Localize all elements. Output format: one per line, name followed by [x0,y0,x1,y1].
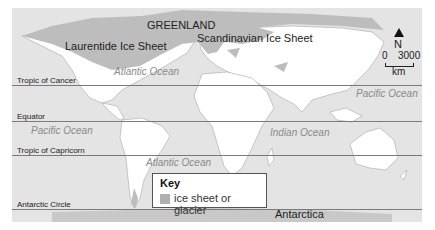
tropic-of-cancer-label: Tropic of Cancer [17,76,76,85]
scale-unit: km [392,66,405,77]
atlantic-ocean-south-label: Atlantic Ocean [146,157,211,168]
key-item-label: ice sheet or glacier [174,192,266,216]
scale-start: 0 [382,50,388,61]
antarctica-label: Antarctica [275,208,324,220]
tropic-of-capricorn-label: Tropic of Capricorn [17,146,85,155]
north-label: N [394,38,402,50]
tropic-of-cancer-line [12,85,422,86]
tropic-of-capricorn-line [12,155,422,156]
pacific-ocean-east-label: Pacific Ocean [31,125,93,136]
key-title: Key [160,177,180,189]
indian-ocean-label: Indian Ocean [270,127,330,138]
laurentide-ice-sheet-label: Laurentide Ice Sheet [65,40,167,52]
scandinavian-ice-sheet-label: Scandinavian Ice Sheet [197,32,313,44]
greenland-label: GREENLAND [147,19,215,31]
atlantic-ocean-north-label: Atlantic Ocean [114,66,179,77]
antarctic-circle-label: Antarctic Circle [17,200,71,209]
north-arrow-icon [394,28,404,37]
equator-label: Equator [17,112,45,121]
equator-line [12,121,422,122]
compass-scale: N 0 3000 km [382,28,422,83]
ice-swatch [160,194,170,204]
scale-end: 3000 [398,50,420,61]
map-key: Key ice sheet or glacier [152,173,267,208]
pacific-ocean-west-label: Pacific Ocean [356,88,418,99]
